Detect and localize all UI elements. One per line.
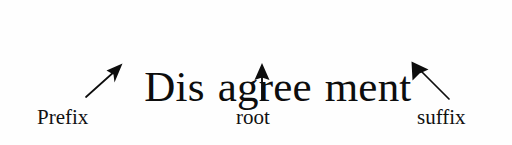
morpheme-root: agree <box>218 63 312 110</box>
morpheme-suffix: ment <box>325 63 412 110</box>
label-prefix: Prefix <box>37 105 88 129</box>
label-suffix: suffix <box>417 105 466 129</box>
morpheme-prefix: Dis <box>144 63 204 110</box>
morphology-figure: Disagreement Prefix root suffix <box>0 0 512 145</box>
label-root: root <box>236 105 270 129</box>
